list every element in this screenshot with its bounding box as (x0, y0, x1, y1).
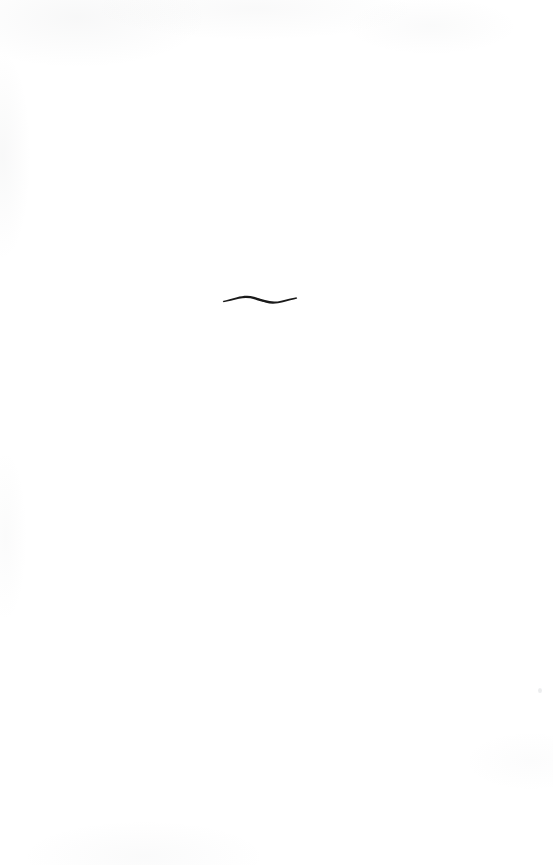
scan-speck-artifact (538, 688, 542, 693)
wave-swash-ornament (222, 291, 298, 309)
wave-swash-ornament-icon (222, 291, 298, 309)
scan-texture-overlay (0, 0, 553, 865)
scanned-page (0, 0, 553, 865)
